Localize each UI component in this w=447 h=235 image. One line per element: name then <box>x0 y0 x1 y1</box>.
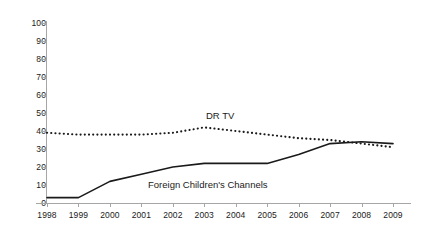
series-line-dr-tv <box>47 127 393 147</box>
series-label-foreign-childrens-channels: Foreign Children's Channels <box>148 180 268 190</box>
chart-container: 0102030405060708090100 19981999200020012… <box>0 0 447 235</box>
series-label-dr-tv: DR TV <box>206 111 234 121</box>
